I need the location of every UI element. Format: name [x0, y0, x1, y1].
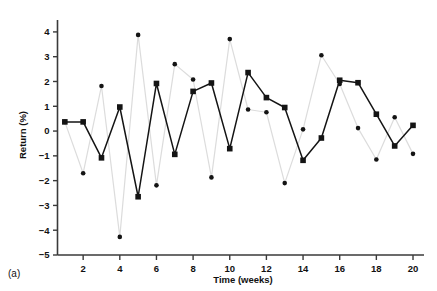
series-dark-marker — [227, 146, 233, 152]
x-tick-label: 6 — [154, 263, 159, 274]
y-tick-label: 4 — [44, 26, 50, 37]
series-light-marker — [374, 157, 379, 162]
series-light-marker — [301, 127, 306, 132]
y-tick-label: −1 — [39, 150, 51, 161]
series-light-marker — [99, 84, 104, 89]
panel-label: (a) — [8, 268, 20, 279]
series-dark-marker — [264, 95, 270, 101]
series-dark-marker — [80, 119, 86, 125]
y-tick-label: −2 — [39, 175, 50, 186]
series-dark-marker — [135, 194, 141, 200]
y-tick-label: 0 — [44, 125, 49, 136]
series-dark-marker — [172, 152, 178, 158]
x-tick-label: 4 — [117, 263, 123, 274]
series-light-marker — [81, 171, 86, 176]
x-tick-label: 2 — [81, 263, 86, 274]
series-light-marker — [136, 33, 141, 38]
series-light-marker — [154, 183, 159, 188]
series-dark-marker — [62, 119, 68, 125]
series-dark-marker — [99, 155, 105, 161]
series-light-marker — [356, 126, 361, 131]
series-light-marker — [246, 107, 251, 112]
series-dark-marker — [245, 70, 251, 76]
series-light-marker — [118, 235, 123, 240]
y-tick-label: 2 — [44, 76, 49, 87]
y-axis-label: Return (%) — [17, 111, 28, 159]
series-dark-marker — [374, 111, 380, 117]
x-tick-label: 20 — [408, 263, 419, 274]
series-dark-marker — [209, 80, 215, 86]
x-tick-label: 18 — [371, 263, 382, 274]
x-tick-label: 12 — [261, 263, 272, 274]
y-tick-label: −4 — [39, 225, 51, 236]
series-dark-marker — [355, 80, 361, 86]
series-light-marker — [392, 115, 397, 120]
series-light-marker — [227, 37, 232, 42]
series-light-marker — [282, 181, 287, 186]
series-dark-marker — [300, 158, 306, 164]
series-light-marker — [209, 175, 214, 180]
y-tick-label: 1 — [44, 101, 50, 112]
series-light-marker — [172, 62, 177, 67]
y-tick-label: −5 — [39, 249, 51, 260]
chart-background — [0, 0, 437, 291]
series-light-marker — [264, 110, 269, 115]
y-tick-label: −3 — [39, 200, 50, 211]
series-dark-marker — [282, 105, 288, 111]
series-dark-marker — [190, 89, 196, 95]
series-dark-marker — [337, 77, 343, 83]
series-light-marker — [319, 53, 324, 58]
x-tick-label: 8 — [190, 263, 195, 274]
y-tick-label: 3 — [44, 51, 49, 62]
series-light-marker — [411, 152, 416, 157]
series-dark-marker — [392, 143, 398, 149]
x-tick-label: 16 — [334, 263, 345, 274]
figure-panel-a: −5−4−3−2−1012342468101214161820 Return (… — [0, 0, 437, 291]
x-tick-label: 10 — [224, 263, 235, 274]
x-tick-label: 14 — [298, 263, 309, 274]
series-light-marker — [191, 77, 196, 82]
series-dark-marker — [117, 104, 123, 110]
series-dark-marker — [154, 81, 160, 87]
series-dark-marker — [319, 135, 325, 141]
series-dark-marker — [410, 123, 416, 129]
return-vs-time-line-chart: −5−4−3−2−1012342468101214161820 Return (… — [0, 0, 437, 291]
x-axis-label: Time (weeks) — [213, 274, 273, 285]
